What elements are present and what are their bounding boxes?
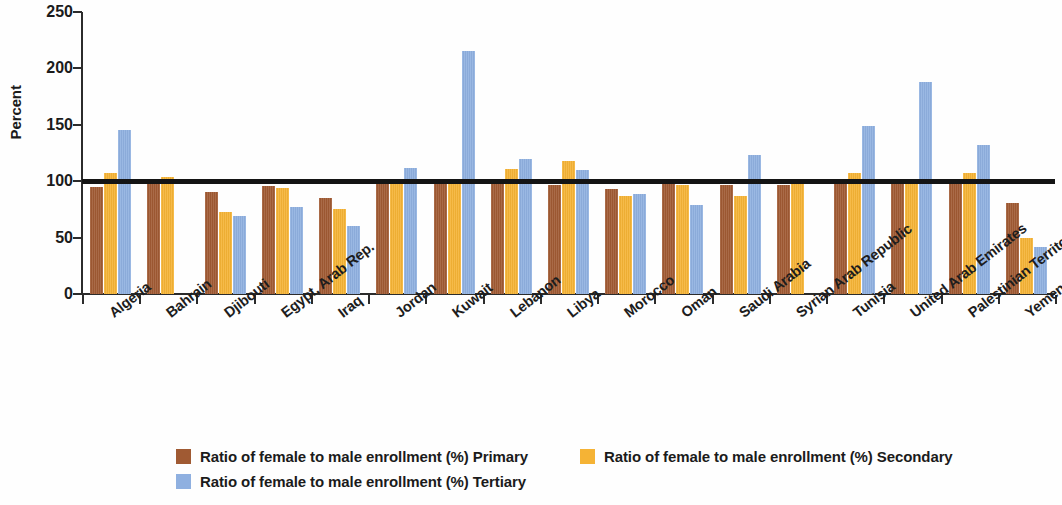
chart-legend: Ratio of female to male enrollment (%) P…	[176, 448, 1036, 498]
bar	[376, 180, 389, 294]
y-tick-label-0: 0	[29, 285, 73, 303]
reference-line-100	[82, 179, 1055, 184]
bar	[219, 212, 232, 294]
legend-swatch-primary-icon	[176, 449, 191, 464]
bar	[748, 155, 761, 294]
bar-group	[368, 12, 425, 294]
legend-item-primary[interactable]: Ratio of female to male enrollment (%) P…	[176, 448, 528, 465]
y-tick-mark-250	[73, 11, 82, 13]
bar	[104, 173, 117, 294]
bar	[720, 185, 733, 294]
legend-label-tertiary: Ratio of female to male enrollment (%) T…	[200, 473, 526, 490]
legend-swatch-tertiary-icon	[176, 474, 191, 489]
bar	[118, 130, 131, 294]
legend-item-secondary[interactable]: Ratio of female to male enrollment (%) S…	[580, 448, 953, 465]
bar-group	[597, 12, 654, 294]
bar-group	[254, 12, 311, 294]
y-tick-label-150: 150	[29, 116, 73, 134]
bar-group	[540, 12, 597, 294]
y-tick-mark-50	[73, 237, 82, 239]
bar-group	[483, 12, 540, 294]
y-tick-label-250: 250	[29, 3, 73, 21]
bar	[404, 168, 417, 294]
bar-group	[425, 12, 482, 294]
bar	[690, 205, 703, 294]
bar	[505, 169, 518, 294]
bar-chart: Percent 050100150200250 AlgeriaBahrainDj…	[0, 0, 1062, 505]
bar	[90, 187, 103, 294]
y-tick-mark-150	[73, 124, 82, 126]
bar	[462, 51, 475, 294]
bar	[434, 181, 447, 294]
bar	[161, 177, 174, 294]
bar	[448, 180, 461, 294]
bar	[290, 207, 303, 294]
y-tick-label-100: 100	[29, 172, 73, 190]
bar	[734, 196, 747, 294]
legend-label-primary: Ratio of female to male enrollment (%) P…	[200, 448, 528, 465]
y-tick-mark-100	[73, 180, 82, 182]
plot-area	[82, 12, 1055, 294]
y-tick-mark-0	[73, 293, 82, 295]
bar	[147, 180, 160, 294]
bar	[633, 194, 646, 294]
x-axis-label: Iraq	[335, 292, 365, 320]
x-tick-mark	[82, 295, 84, 304]
bar-group	[883, 12, 940, 294]
bar-group	[196, 12, 253, 294]
bar	[233, 216, 246, 294]
bar-group	[712, 12, 769, 294]
bar	[619, 196, 632, 294]
legend-item-tertiary[interactable]: Ratio of female to male enrollment (%) T…	[176, 473, 526, 490]
y-tick-mark-200	[73, 67, 82, 69]
y-tick-label-200: 200	[29, 59, 73, 77]
bar	[491, 181, 504, 294]
bar-group	[769, 12, 826, 294]
bar	[390, 179, 403, 294]
bar	[576, 170, 589, 294]
bar	[276, 188, 289, 294]
legend-row-2: Ratio of female to male enrollment (%) T…	[176, 473, 1036, 498]
bar-group	[82, 12, 139, 294]
legend-swatch-secondary-icon	[580, 449, 595, 464]
y-tick-label-50: 50	[29, 229, 73, 247]
y-axis-title: Percent	[7, 114, 24, 140]
bar	[676, 185, 689, 294]
legend-row-1: Ratio of female to male enrollment (%) P…	[176, 448, 1036, 473]
bar-group	[654, 12, 711, 294]
bar	[605, 189, 618, 294]
bar-group	[139, 12, 196, 294]
legend-label-secondary: Ratio of female to male enrollment (%) S…	[604, 448, 953, 465]
bar	[919, 82, 932, 294]
x-tick-mark	[368, 295, 370, 304]
